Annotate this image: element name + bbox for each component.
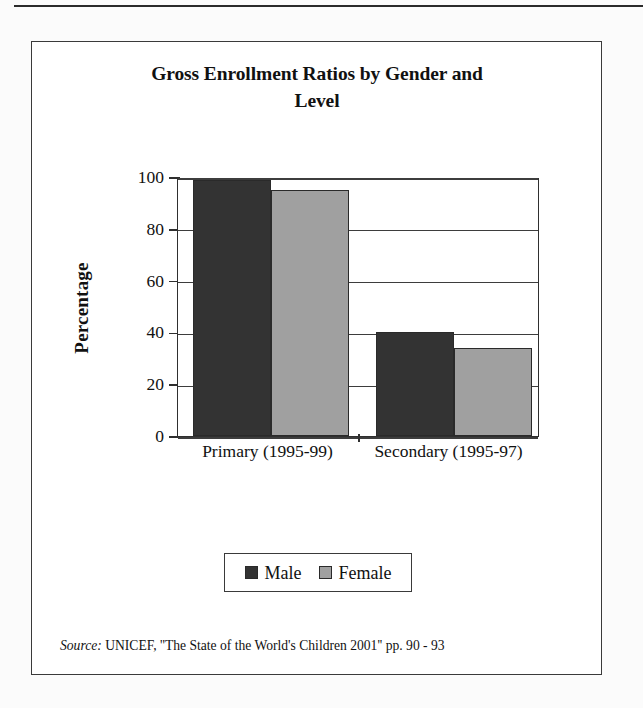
figure-container: Gross Enrollment Ratios by Gender and Le… [31,41,602,675]
y-axis-title-label: Percentage [71,262,93,353]
bar-male-primary [193,180,271,436]
legend-label-male: Male [265,564,302,582]
legend-label-female: Female [339,564,392,582]
chart-title: Gross Enrollment Ratios by Gender and Le… [82,60,552,114]
x-axis-group-tick [358,434,360,442]
y-tick-label-20: 20 [120,376,164,394]
y-axis-tick-labels: 100806040200 [120,178,164,437]
y-tick-label-100: 100 [120,169,164,187]
source-note-text: UNICEF, ''The State of the World's Child… [105,638,444,653]
y-tick-label-80: 80 [120,221,164,239]
bar-female-secondary [454,348,532,436]
plot-region [177,178,539,437]
legend-entry-male: Male [245,564,302,582]
y-tick-label-0: 0 [120,428,164,446]
legend-swatch-female-icon [319,566,332,579]
page-top-rule [14,5,643,7]
y-axis-title: Percentage [68,220,96,396]
source-note-lead: Source: [60,638,102,653]
chart-title-line-1: Gross Enrollment Ratios by Gender and [82,60,552,87]
legend-entry-female: Female [319,564,392,582]
bar-male-secondary [376,332,454,436]
source-note: Source: UNICEF, ''The State of the World… [60,637,580,655]
legend-swatch-male-icon [245,566,258,579]
plot-area [177,178,539,437]
x-tick-label-secondary: Secondary (1995-97) [358,440,539,462]
chart-legend: MaleFemale [224,553,412,592]
y-tick-label-40: 40 [120,324,164,342]
x-tick-label-primary: Primary (1995-99) [177,440,358,462]
x-axis-category-labels: Primary (1995-99)Secondary (1995-97) [177,440,539,468]
y-tick-label-60: 60 [120,273,164,291]
chart-title-line-2: Level [82,87,552,114]
bar-female-primary [271,190,349,436]
